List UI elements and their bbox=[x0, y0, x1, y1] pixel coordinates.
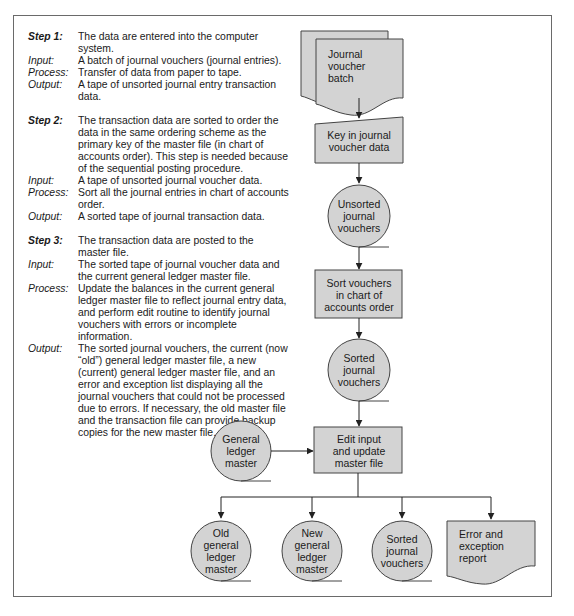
node-label: Sortedjournalvouchers bbox=[338, 352, 381, 388]
node-label: Unsortedjournalvouchers bbox=[338, 198, 381, 234]
gl-master-node: Generalledgermaster bbox=[211, 421, 271, 481]
node-label: Sortedjournalvouchers bbox=[381, 533, 424, 569]
sort-node: Sort vouchersin chart ofaccounts order bbox=[315, 270, 402, 318]
branch-connectors bbox=[221, 473, 491, 519]
journal-voucher-batch-node: Journalvoucherbatch bbox=[301, 31, 403, 115]
sorted-out-node: Sortedjournalvouchers bbox=[372, 521, 432, 581]
old-gl-node: Oldgeneralledgermaster bbox=[191, 521, 251, 581]
sorted-tape-node: Sortedjournalvouchers bbox=[328, 339, 390, 401]
node-label: Edit inputand updatemaster file bbox=[333, 433, 386, 469]
key-in-node: Key in journalvoucher data bbox=[315, 117, 403, 163]
edit-update-node: Edit inputand updatemaster file bbox=[314, 427, 402, 473]
error-report-node: Error andexceptionreport bbox=[447, 521, 535, 584]
node-label: Key in journalvoucher data bbox=[327, 129, 391, 153]
flowchart: Journalvoucherbatch Key in journalvouche… bbox=[0, 0, 574, 616]
unsorted-tape-node: Unsortedjournalvouchers bbox=[328, 185, 390, 247]
new-gl-node: Newgeneralledgermaster bbox=[282, 521, 342, 581]
node-label: Generalledgermaster bbox=[222, 433, 259, 469]
